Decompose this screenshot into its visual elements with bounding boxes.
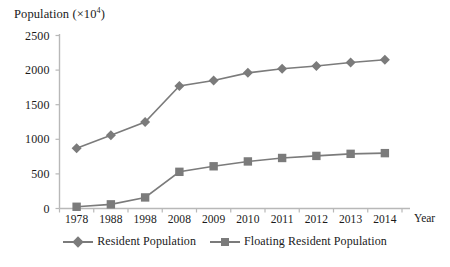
data-point-square bbox=[107, 200, 115, 208]
legend-label-resident-population: Resident Population bbox=[97, 235, 196, 248]
y-axis-tick-label: 1500 bbox=[10, 99, 50, 111]
data-point-diamond bbox=[106, 130, 116, 140]
series-line-2 bbox=[77, 153, 385, 207]
data-point-diamond bbox=[72, 143, 82, 153]
legend-diamond-marker-icon bbox=[63, 236, 93, 248]
data-point-diamond bbox=[346, 57, 356, 67]
y-axis-tick-label: 2000 bbox=[10, 64, 50, 76]
y-axis-tick-label: 1000 bbox=[10, 133, 50, 145]
data-point-square bbox=[312, 152, 320, 160]
y-axis-tick-label: 0 bbox=[10, 203, 50, 215]
legend-label-floating-resident-population: Floating Resident Population bbox=[244, 235, 387, 248]
series-line-1 bbox=[77, 60, 385, 149]
x-axis-tick-label: 2014 bbox=[363, 213, 407, 225]
series-layer bbox=[72, 55, 390, 211]
data-point-diamond bbox=[380, 55, 390, 65]
y-axis-tick-label: 2500 bbox=[10, 30, 50, 42]
data-point-square bbox=[278, 154, 286, 162]
population-line-chart: Population (×104) 05001000150020002500 1… bbox=[0, 0, 450, 267]
chart-legend: Resident Population Floating Resident Po… bbox=[0, 235, 450, 248]
data-point-diamond bbox=[209, 75, 219, 85]
plot-canvas bbox=[0, 0, 450, 267]
data-point-square bbox=[175, 168, 183, 176]
y-axis-tick-label: 500 bbox=[10, 168, 50, 180]
data-point-square bbox=[141, 193, 149, 201]
axis-lines bbox=[60, 34, 411, 209]
data-point-diamond bbox=[243, 68, 253, 78]
data-point-diamond bbox=[311, 61, 321, 71]
x-axis-title: Year bbox=[414, 212, 435, 224]
data-point-square bbox=[346, 150, 354, 158]
legend-item-resident-population[interactable]: Resident Population bbox=[63, 235, 196, 248]
data-point-diamond bbox=[277, 64, 287, 74]
data-point-square bbox=[244, 157, 252, 165]
data-point-square bbox=[381, 149, 389, 157]
legend-item-floating-resident-population[interactable]: Floating Resident Population bbox=[210, 235, 387, 248]
legend-square-marker-icon bbox=[210, 236, 240, 248]
data-point-square bbox=[209, 162, 217, 170]
data-point-square bbox=[72, 203, 80, 211]
